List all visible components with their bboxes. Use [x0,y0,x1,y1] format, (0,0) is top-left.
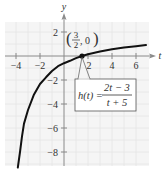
svg-text:2: 2 [74,40,79,50]
y-tick-label: −6 [47,123,58,134]
t-axis-label: t [159,50,162,61]
x-tick-label: 2 [87,60,92,71]
svg-text:3: 3 [74,30,79,40]
equation-denominator: t + 5 [107,97,128,108]
svg-text:, 0: , 0 [80,35,90,46]
svg-text:): ) [93,29,99,48]
y-tick-label: −4 [47,99,58,110]
equation-numerator: 2t − 3 [104,82,130,93]
equation-box: h(t) = 2t − 3 t + 5 [75,79,136,111]
x-tick-label: −2 [35,60,46,71]
y-tick-label: −8 [47,147,58,158]
x-tick-label: 4 [110,60,115,71]
svg-text:(: ( [66,29,72,48]
equation-lhs: h(t) = [78,90,103,102]
x-tick-label: −4 [11,60,22,71]
y-tick-label: 2 [53,27,58,38]
function-graph: −4 −2 2 4 6 2 −2 −4 −6 −8 y t ( 3 2 , 0 … [0,0,164,171]
x-tick-label: 6 [134,60,139,71]
y-axis-label: y [61,1,67,12]
y-tick-label: −2 [47,75,58,86]
